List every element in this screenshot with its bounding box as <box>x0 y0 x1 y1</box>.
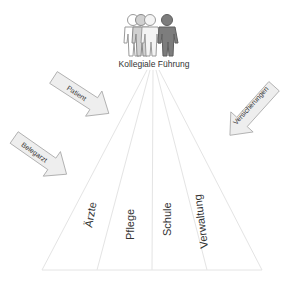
segment-labels: Ärzte Pflege Schule Verwaltung <box>82 194 210 249</box>
group-of-people-icon <box>124 15 178 57</box>
arrow-shape <box>219 76 284 145</box>
arrow-versicherungen: Versicherungen <box>219 76 284 145</box>
fan-line-2 <box>152 70 153 270</box>
segment-label-pflege: Pflege <box>124 209 136 240</box>
title-label: Kollegiale Führung <box>119 59 190 69</box>
arrow-belegarzt: Belegarzt <box>6 125 76 186</box>
segment-label-schule: Schule <box>161 202 173 236</box>
arrow-patient: Patient <box>45 65 117 126</box>
diagram-canvas: Ärzte Pflege Schule Verwaltung Kollegial… <box>0 0 284 281</box>
segment-label-aerzte: Ärzte <box>82 201 98 228</box>
fan-line-outer-right <box>159 70 262 270</box>
segment-label-verwaltung: Verwaltung <box>191 194 210 249</box>
person-icon-4 <box>158 15 178 57</box>
